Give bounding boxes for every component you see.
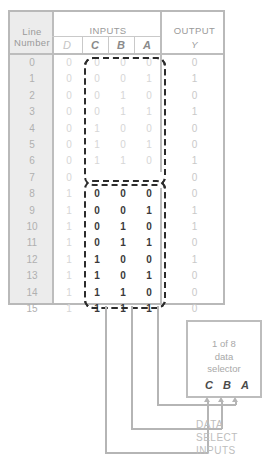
cell-line-number: 7 (10, 170, 54, 185)
header-output-variable: Y (162, 39, 227, 50)
cell-input-a: 0 (136, 55, 162, 70)
cell-input-d: 1 (54, 301, 84, 316)
table-row: 000000 (10, 55, 223, 70)
cell-input-a: 1 (136, 235, 162, 250)
cell-input-b: 0 (110, 186, 136, 201)
cell-input-d: 1 (54, 268, 84, 283)
table-row: 300111 (10, 104, 223, 119)
cell-input-b: 0 (110, 71, 136, 86)
truth-table: Line Number INPUTS OUTPUT Y D C B A 0000… (8, 10, 225, 305)
cell-output-y: 0 (162, 121, 227, 136)
cell-input-d: 1 (54, 203, 84, 218)
cell-input-d: 0 (54, 71, 84, 86)
cell-output-y: 0 (162, 88, 227, 103)
cell-output-y: 1 (162, 252, 227, 267)
cell-input-c: 0 (84, 55, 110, 70)
cell-input-b: 1 (110, 88, 136, 103)
cell-input-c: 0 (84, 235, 110, 250)
cell-input-b: 1 (110, 285, 136, 300)
cell-output-y: 0 (162, 137, 227, 152)
wire-a-riser (235, 402, 237, 405)
cell-line-number: 0 (10, 55, 54, 70)
cell-input-b: 0 (110, 121, 136, 136)
table-row: 501010 (10, 137, 223, 152)
truth-table-inner: Line Number INPUTS OUTPUT Y D C B A 0000… (10, 12, 223, 303)
cell-input-a: 1 (136, 203, 162, 218)
cell-line-number: 1 (10, 71, 54, 86)
table-row: 401000 (10, 121, 223, 136)
table-row: 1110110 (10, 235, 223, 250)
arrowhead-c-input (204, 397, 210, 402)
cell-line-number: 6 (10, 153, 54, 168)
cell-input-a: 1 (136, 71, 162, 86)
cell-input-c: 1 (84, 285, 110, 300)
cell-input-c: 1 (84, 153, 110, 168)
cell-output-y: 0 (162, 301, 227, 316)
cell-input-d: 1 (54, 186, 84, 201)
table-row: 1411100 (10, 285, 223, 300)
cell-input-a: 0 (136, 121, 162, 136)
wire-c-horizontal (105, 452, 208, 454)
data-selector-label-line3: selector (188, 363, 260, 376)
header-var-c: C (82, 38, 108, 52)
cell-input-a: 1 (136, 268, 162, 283)
table-row: 1010101 (10, 219, 223, 234)
cell-line-number: 11 (10, 235, 54, 250)
cell-line-number: 5 (10, 137, 54, 152)
cell-output-y: 0 (162, 186, 227, 201)
cell-input-d: 0 (54, 121, 84, 136)
cell-input-a: 1 (136, 104, 162, 119)
data-selector-label: 1 of 8 data selector (188, 338, 260, 376)
cell-input-d: 1 (54, 235, 84, 250)
table-row: 1311010 (10, 268, 223, 283)
data-select-inputs-line2: SELECT (196, 431, 270, 444)
pin-label-a: A (238, 379, 252, 391)
table-row: 810000 (10, 186, 223, 201)
cell-line-number: 13 (10, 268, 54, 283)
header-var-b: B (108, 38, 134, 52)
data-selector-label-line2: data (188, 351, 260, 364)
cell-input-a: 0 (136, 186, 162, 201)
cell-line-number: 14 (10, 285, 54, 300)
cell-input-c: 0 (84, 71, 110, 86)
cell-input-c: 0 (84, 203, 110, 218)
data-selector-block[interactable]: 1 of 8 data selector C B A (186, 320, 262, 398)
cell-input-d: 0 (54, 104, 84, 119)
cell-output-y: 1 (162, 104, 227, 119)
dashed-pinch-mask (84, 172, 162, 188)
table-row: 1211001 (10, 252, 223, 267)
table-row: 910011 (10, 203, 223, 218)
header-line-number: Line Number (10, 26, 54, 48)
pin-label-c: C (202, 379, 216, 391)
cell-output-y: 1 (162, 203, 227, 218)
cell-input-d: 1 (54, 219, 84, 234)
cell-input-b: 0 (110, 203, 136, 218)
cell-input-d: 1 (54, 285, 84, 300)
data-selector-label-line1: 1 of 8 (188, 338, 260, 351)
cell-input-c: 0 (84, 104, 110, 119)
cell-input-b: 1 (110, 235, 136, 250)
arrowhead-b-input (218, 397, 224, 402)
pin-label-b: B (220, 379, 234, 391)
cell-line-number: 8 (10, 186, 54, 201)
cell-input-a: 0 (136, 252, 162, 267)
cell-input-c: 1 (84, 121, 110, 136)
arrowhead-a-input (232, 397, 238, 402)
wire-c-drop (105, 306, 107, 452)
cell-line-number: 15 (10, 301, 54, 316)
cell-output-y: 1 (162, 153, 227, 168)
cell-output-y: 0 (162, 55, 227, 70)
cell-output-y: 0 (162, 268, 227, 283)
cell-input-a: 0 (136, 219, 162, 234)
cell-output-y: 1 (162, 219, 227, 234)
data-selector-pin-labels: C B A (188, 378, 260, 391)
cell-output-y: 0 (162, 285, 227, 300)
cell-input-b: 0 (110, 55, 136, 70)
data-select-inputs-line3: INPUTS (196, 444, 270, 457)
cell-line-number: 2 (10, 88, 54, 103)
cell-line-number: 12 (10, 252, 54, 267)
cell-input-b: 0 (110, 137, 136, 152)
header-var-d: D (52, 38, 82, 52)
header-line-number-line2: Number (10, 37, 54, 48)
cell-input-c: 1 (84, 137, 110, 152)
